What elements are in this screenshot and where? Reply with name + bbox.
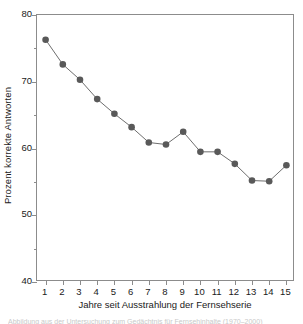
data-point-marker (163, 141, 170, 148)
caption-sliver: Abbildung aus der Untersuchung zum Gedäc… (8, 317, 295, 324)
data-point-marker (197, 149, 204, 156)
data-point-marker (111, 110, 118, 117)
data-point-marker (146, 139, 153, 146)
data-point-marker (214, 149, 221, 156)
x-tick-label: 15 (275, 286, 295, 297)
y-tick-label: 80 (14, 9, 32, 19)
series-polyline (46, 40, 287, 182)
y-axis-tick-labels: 4050607080 (12, 0, 32, 324)
data-point-marker (77, 76, 84, 83)
data-point-marker (60, 61, 67, 68)
x-axis-tick-labels: 123456789101112131415 (36, 286, 294, 300)
data-point-marker (249, 177, 256, 184)
data-point-marker (42, 36, 49, 43)
data-series-line (37, 15, 295, 282)
y-tick-label: 50 (14, 209, 32, 219)
y-tick-label: 60 (14, 143, 32, 153)
plot-area (36, 14, 294, 281)
chart-figure: Prozent korrekte Antworten 4050607080 12… (0, 0, 303, 324)
data-point-marker (266, 178, 273, 185)
data-point-marker (180, 129, 187, 136)
data-point-marker (128, 124, 135, 131)
data-point-marker (94, 96, 101, 103)
data-point-marker (283, 162, 290, 169)
data-point-marker (232, 161, 239, 168)
y-tick-label: 40 (14, 276, 32, 286)
x-axis-title: Jahre seit Ausstrahlung der Fernsehserie (36, 299, 294, 310)
y-tick-label: 70 (14, 76, 32, 86)
y-tick-mark (32, 282, 37, 283)
